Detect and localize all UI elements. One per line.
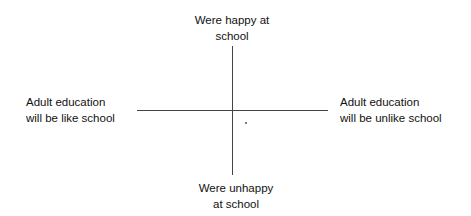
top-axis-label: Were happy at school bbox=[182, 12, 282, 44]
center-dot bbox=[245, 122, 247, 124]
bottom-axis-label-line2: at school bbox=[186, 196, 286, 212]
left-axis-label: Adult education will be like school bbox=[26, 94, 115, 126]
right-axis-label-line1: Adult education bbox=[340, 94, 442, 110]
top-axis-label-line2: school bbox=[182, 28, 282, 44]
right-axis-label: Adult education will be unlike school bbox=[340, 94, 442, 126]
horizontal-axis bbox=[137, 110, 328, 111]
left-axis-label-line1: Adult education bbox=[26, 94, 115, 110]
bottom-axis-label: Were unhappy at school bbox=[186, 180, 286, 212]
right-axis-label-line2: will be unlike school bbox=[340, 110, 442, 126]
left-axis-label-line2: will be like school bbox=[26, 110, 115, 126]
bottom-axis-label-line1: Were unhappy bbox=[186, 180, 286, 196]
top-axis-label-line1: Were happy at bbox=[182, 12, 282, 28]
